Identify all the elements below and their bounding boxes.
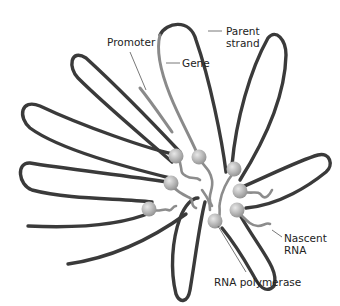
rna-polymerase-icon bbox=[164, 176, 179, 191]
rna-polymerase-leader-line bbox=[218, 226, 246, 272]
dna-loop-left-lower bbox=[20, 163, 168, 202]
rna-polymerase-label: RNA polymerase bbox=[214, 276, 301, 288]
parent-strand-label-line1: Parent bbox=[226, 25, 260, 37]
diagram-svg bbox=[0, 0, 340, 306]
nascent-rna-label-line1: Nascent bbox=[284, 232, 327, 244]
promoter-label: Promoter bbox=[107, 36, 155, 48]
rna-polymerase-icon bbox=[233, 184, 248, 199]
rna-polymerase-icon bbox=[230, 203, 245, 218]
rna-strand bbox=[172, 186, 196, 208]
gene-strand bbox=[158, 35, 200, 160]
rna-polymerase-icon bbox=[208, 214, 223, 229]
nascent-rna-label-line2: RNA bbox=[284, 244, 306, 256]
dna-loop-right-middle bbox=[240, 155, 330, 208]
rna-polymerase-icon bbox=[169, 149, 184, 164]
dna-loop-right-tall bbox=[232, 34, 286, 180]
transcription-diagram: Promoter Gene Parent strand Nascent RNA … bbox=[0, 0, 340, 306]
rna-polymerase-icon bbox=[142, 202, 157, 217]
rna-strand bbox=[244, 190, 272, 197]
rna-polymerase-icon bbox=[227, 162, 242, 177]
nascent-rna-leader-line bbox=[272, 230, 282, 237]
parent-strand-label-line2: strand bbox=[226, 37, 260, 49]
rna-polymerase-icon bbox=[192, 150, 207, 165]
dna-loop-promoter bbox=[72, 55, 180, 162]
dna-loop-bottom bbox=[173, 198, 205, 300]
promoter-leader-line bbox=[130, 52, 146, 90]
gene-label: Gene bbox=[182, 57, 210, 69]
rna-strand bbox=[200, 160, 212, 206]
dna-free-end-left bbox=[28, 212, 152, 227]
